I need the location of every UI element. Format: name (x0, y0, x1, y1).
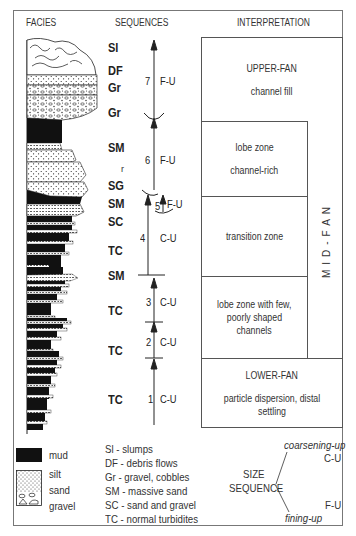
size-sequence-branches (0, 0, 356, 536)
